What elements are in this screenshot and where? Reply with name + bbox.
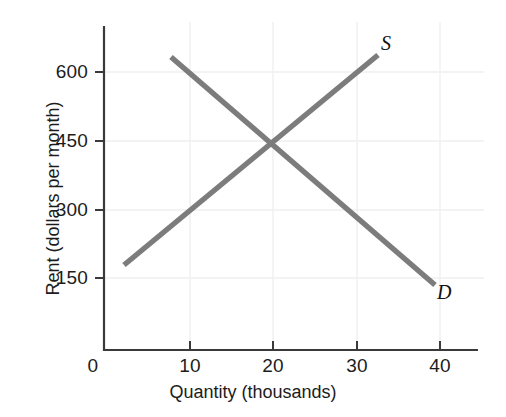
x-tick-label-30: 30 [346, 355, 368, 377]
supply-curve-label: S [381, 32, 391, 55]
demand-curve-label: D [437, 281, 451, 304]
x-tick-marks [190, 341, 440, 350]
x-tick-label-0: 0 [88, 355, 99, 377]
x-tick-label-40: 40 [429, 355, 451, 377]
supply-curve [124, 55, 378, 265]
demand-curve [171, 57, 435, 285]
y-tick-marks [95, 72, 104, 278]
gridlines [104, 22, 484, 350]
x-tick-label-20: 20 [262, 355, 284, 377]
y-axis-title: Rent (dollars per month) [43, 54, 64, 344]
x-tick-label-10: 10 [179, 355, 201, 377]
x-axis-title: Quantity (thousands) [0, 382, 506, 403]
supply-demand-chart: 600 450 300 150 0 10 20 30 40 Rent (doll… [0, 0, 506, 417]
